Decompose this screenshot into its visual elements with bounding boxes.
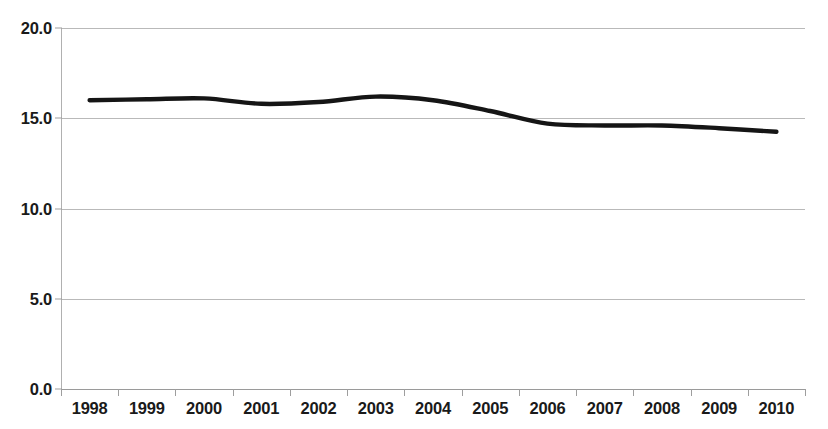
y-tick-label: 0.0 bbox=[4, 380, 52, 399]
x-tick-mark bbox=[462, 389, 463, 396]
line-chart: 0.05.010.015.020.0 199819992000200120022… bbox=[0, 0, 828, 429]
x-tick-label: 2001 bbox=[243, 399, 279, 418]
x-tick-mark bbox=[233, 389, 234, 396]
x-tick-mark bbox=[633, 389, 634, 396]
x-tick-label: 2003 bbox=[358, 399, 394, 418]
x-tick-label: 2000 bbox=[186, 399, 222, 418]
x-tick-label: 2010 bbox=[758, 399, 794, 418]
x-tick-label: 2005 bbox=[472, 399, 508, 418]
x-tick-mark bbox=[748, 389, 749, 396]
y-tick-label: 15.0 bbox=[4, 109, 52, 128]
gridline-5 bbox=[61, 299, 805, 300]
x-tick-mark bbox=[691, 389, 692, 396]
x-tick-mark bbox=[347, 389, 348, 396]
x-tick-label: 1998 bbox=[72, 399, 108, 418]
gridline-20 bbox=[61, 28, 805, 29]
x-tick-label: 2006 bbox=[530, 399, 566, 418]
y-tick-mark bbox=[55, 28, 62, 29]
x-tick-mark bbox=[290, 389, 291, 396]
x-tick-mark bbox=[519, 389, 520, 396]
x-tick-mark bbox=[805, 389, 806, 396]
x-tick-label: 2002 bbox=[301, 399, 337, 418]
x-tick-label: 2004 bbox=[415, 399, 451, 418]
gridline-10 bbox=[61, 209, 805, 210]
y-axis-tick-labels: 0.05.010.015.020.0 bbox=[0, 0, 52, 429]
x-tick-mark bbox=[404, 389, 405, 396]
y-tick-label: 10.0 bbox=[4, 199, 52, 218]
x-tick-label: 2007 bbox=[587, 399, 623, 418]
x-tick-label: 1999 bbox=[129, 399, 165, 418]
gridline-15 bbox=[61, 118, 805, 119]
y-tick-mark bbox=[55, 298, 62, 299]
y-tick-mark bbox=[55, 118, 62, 119]
x-tick-mark bbox=[61, 389, 62, 396]
x-tick-mark bbox=[175, 389, 176, 396]
x-tick-mark bbox=[118, 389, 119, 396]
y-tick-label: 5.0 bbox=[4, 289, 52, 308]
y-tick-mark bbox=[55, 208, 62, 209]
x-tick-label: 2009 bbox=[701, 399, 737, 418]
y-tick-label: 20.0 bbox=[4, 19, 52, 38]
x-tick-label: 2008 bbox=[644, 399, 680, 418]
plot-area bbox=[61, 28, 805, 389]
x-tick-mark bbox=[576, 389, 577, 396]
gridline-0 bbox=[61, 389, 805, 390]
